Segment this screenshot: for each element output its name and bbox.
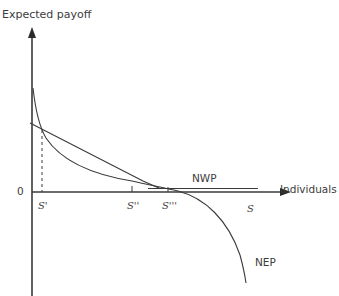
y-axis-label: Expected payoff bbox=[2, 8, 91, 21]
nep-curve bbox=[33, 88, 246, 283]
nep-label: NEP bbox=[255, 256, 276, 268]
tick-label-s3: S''' bbox=[162, 200, 177, 211]
nwp-label: NWP bbox=[192, 172, 217, 184]
straight-line bbox=[30, 123, 160, 189]
tick-label-s2: S'' bbox=[127, 200, 139, 211]
tick-label-s4: S bbox=[247, 203, 254, 214]
x-axis-label: Individuals bbox=[280, 183, 337, 195]
diagram-canvas bbox=[0, 0, 339, 296]
y-axis-arrow-icon bbox=[28, 27, 36, 38]
tick-label-s1: S' bbox=[38, 200, 48, 211]
origin-label: 0 bbox=[17, 185, 24, 197]
